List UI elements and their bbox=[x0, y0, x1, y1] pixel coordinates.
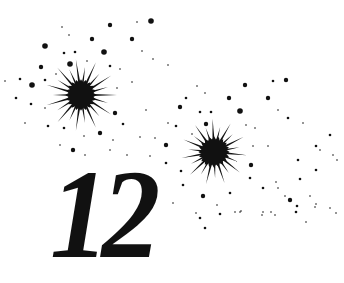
star-dot bbox=[262, 187, 265, 190]
star-dot bbox=[329, 207, 331, 209]
star-dot bbox=[266, 96, 270, 100]
star-dot bbox=[136, 21, 138, 23]
star-dot bbox=[295, 211, 298, 214]
star-dot bbox=[44, 107, 46, 109]
star-dot bbox=[204, 122, 208, 126]
star-dot bbox=[287, 117, 290, 120]
star-dot bbox=[63, 127, 66, 130]
star-dot bbox=[83, 135, 85, 137]
star-dot bbox=[167, 122, 169, 124]
star-dot bbox=[319, 149, 321, 151]
star-dot bbox=[210, 111, 213, 114]
star-dot bbox=[63, 52, 66, 55]
star-dot bbox=[182, 184, 185, 187]
star-dot bbox=[201, 194, 205, 198]
star-dot bbox=[272, 80, 275, 83]
star-dot bbox=[315, 169, 318, 172]
star-dot bbox=[288, 198, 292, 202]
star-dot bbox=[165, 162, 168, 165]
star-dot bbox=[119, 68, 121, 70]
star-dot bbox=[216, 204, 218, 206]
star-dot bbox=[172, 202, 174, 204]
star-dot bbox=[332, 154, 334, 156]
star-dot bbox=[335, 212, 337, 214]
star-dot bbox=[204, 92, 206, 94]
star-dot bbox=[315, 203, 317, 205]
star-dot bbox=[199, 111, 202, 114]
star-dot bbox=[243, 83, 247, 87]
star-dot bbox=[19, 78, 22, 81]
star-dot bbox=[131, 81, 133, 83]
star-dot bbox=[130, 37, 134, 41]
star-dot bbox=[67, 61, 73, 67]
star-dot bbox=[245, 124, 247, 126]
star-dot bbox=[86, 60, 88, 62]
star-dot bbox=[108, 23, 112, 27]
star-dot bbox=[154, 137, 156, 139]
number-twelve: 12 bbox=[50, 150, 153, 278]
star-dot bbox=[237, 108, 243, 114]
star-dot bbox=[305, 221, 307, 223]
star-dot bbox=[299, 178, 302, 181]
star-dot bbox=[229, 192, 232, 195]
star-dot bbox=[195, 212, 197, 214]
star-dot bbox=[329, 134, 332, 137]
star-dot bbox=[309, 195, 311, 197]
star-dot bbox=[227, 96, 231, 100]
star-dot bbox=[219, 213, 222, 216]
star-dot bbox=[148, 18, 154, 24]
star-dot bbox=[101, 49, 107, 55]
star-dot bbox=[267, 145, 269, 147]
star-dot bbox=[261, 214, 263, 216]
star-dot bbox=[178, 105, 182, 109]
star-dot bbox=[296, 205, 299, 208]
star-dot bbox=[204, 227, 207, 230]
star-dot bbox=[29, 82, 35, 88]
star-dot bbox=[254, 127, 256, 129]
star-dot bbox=[167, 64, 169, 66]
star-dot bbox=[234, 211, 236, 213]
star-dot bbox=[152, 58, 154, 60]
star-dot bbox=[24, 122, 26, 124]
star-dot bbox=[252, 145, 254, 147]
star-dot bbox=[315, 145, 318, 148]
star-dot bbox=[90, 37, 94, 41]
star-dot bbox=[15, 97, 18, 100]
star-dot bbox=[249, 163, 253, 167]
star-dot bbox=[302, 122, 304, 124]
star-dot bbox=[277, 109, 279, 111]
star-dot bbox=[68, 34, 70, 36]
star-dot bbox=[284, 195, 286, 197]
star-dot bbox=[297, 159, 300, 162]
star-dot bbox=[275, 181, 277, 183]
star-dot bbox=[113, 111, 117, 115]
star-dot bbox=[42, 43, 48, 49]
star-dot bbox=[262, 211, 264, 213]
star-dot bbox=[55, 73, 57, 75]
star-dot bbox=[139, 136, 141, 138]
star-dot bbox=[145, 109, 147, 111]
star-dot bbox=[141, 50, 143, 52]
star-dot bbox=[175, 125, 178, 128]
star-dot bbox=[249, 177, 252, 180]
star-dot bbox=[4, 80, 6, 82]
star-dot bbox=[164, 143, 168, 147]
star-dot bbox=[196, 85, 198, 87]
star-dot bbox=[239, 211, 241, 213]
star-dot bbox=[284, 78, 288, 82]
star-dot bbox=[39, 65, 43, 69]
starburst-icon bbox=[46, 59, 117, 130]
star-dot bbox=[74, 51, 77, 54]
star-dot bbox=[185, 97, 188, 100]
star-dot bbox=[180, 170, 183, 173]
starburst-icon bbox=[182, 119, 247, 184]
star-dot bbox=[109, 65, 112, 68]
star-dot bbox=[191, 133, 193, 135]
star-dot bbox=[270, 211, 272, 213]
star-dot bbox=[61, 26, 63, 28]
star-dot bbox=[274, 214, 276, 216]
star-dot bbox=[112, 139, 114, 141]
star-dot bbox=[30, 103, 33, 106]
star-dot bbox=[336, 159, 338, 161]
star-dot bbox=[314, 206, 316, 208]
